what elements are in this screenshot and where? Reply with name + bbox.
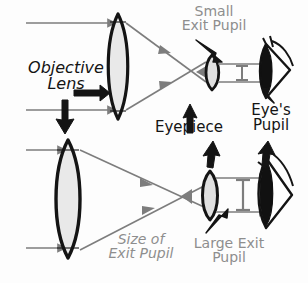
exit-beam-bottom [216, 178, 264, 212]
objective-lens-pointer-arrow-right [74, 85, 110, 101]
objective-lens-pointer-arrow-down [56, 100, 74, 134]
converging-rays-bottom [80, 150, 204, 250]
exit-pupil-measure-large [236, 180, 250, 210]
optics-diagram: Small Exit Pupil Objective Lens Eyepiece… [0, 0, 308, 283]
converging-rays-top [126, 23, 208, 110]
eyepiece-lens-bottom [203, 171, 218, 220]
objective-lens-top [108, 14, 128, 119]
exit-pupil-measure-small [236, 66, 248, 80]
eyepiece-pointer-arrow-top [183, 104, 197, 133]
incoming-rays-top [26, 23, 112, 110]
objective-lens-bottom [56, 140, 80, 258]
eyes-pupil-pointer-arrow-bottom [258, 141, 275, 166]
eyepiece-pointer-arrow-bottom [203, 141, 220, 168]
diagram-canvas [0, 0, 308, 283]
